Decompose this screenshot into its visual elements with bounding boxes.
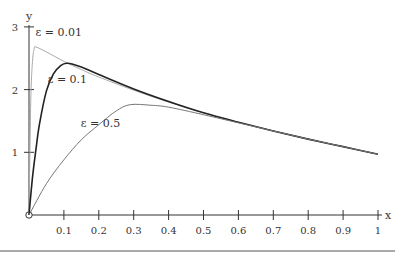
x-tick-label: 0.2: [91, 225, 107, 236]
x-tick-label: 0.8: [300, 225, 316, 236]
x-ticks: 0.10.20.30.40.50.60.70.80.91: [56, 210, 381, 236]
y-tick-label: 2: [12, 85, 18, 96]
y-tick-label: 3: [12, 22, 18, 33]
y-axis-label: y: [25, 10, 33, 23]
x-tick-label: 0.3: [126, 225, 142, 236]
curves: ε = 0.01ε = 0.1ε = 0.5: [29, 26, 378, 215]
curve-series-0: [29, 47, 378, 215]
curve-label: ε = 0.01: [35, 26, 81, 39]
x-axis-label: x: [385, 209, 392, 222]
curve-label: ε = 0.1: [48, 73, 87, 86]
x-tick-label: 0.7: [265, 225, 281, 236]
line-chart: x y 0.10.20.30.40.50.60.70.80.91 123 ε =…: [0, 0, 405, 253]
y-tick-label: 1: [12, 147, 18, 158]
x-tick-label: 0.5: [196, 225, 212, 236]
x-tick-label: 0.6: [230, 225, 246, 236]
x-tick-label: 0.1: [56, 225, 72, 236]
curve-label: ε = 0.5: [81, 117, 120, 130]
x-tick-label: 0.4: [161, 225, 177, 236]
x-tick-label: 1: [375, 225, 381, 236]
x-tick-label: 0.9: [335, 225, 351, 236]
